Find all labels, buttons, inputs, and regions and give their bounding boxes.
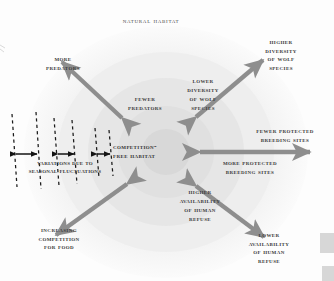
label-more-predators: More predators (26, 55, 100, 72)
label-higher-diversity-wolf-species: Higher diversity of wolf species (240, 38, 322, 73)
label-fewer-predators: Fewer predators (116, 95, 174, 113)
label-more-protected-breeding-sites: More protected breeding sites (200, 159, 300, 177)
label-higher-availability-human-refuse: Higher availability of human refuse (164, 188, 236, 224)
dash-line-1 (12, 114, 17, 187)
label-increasing-competition-for-food: Increasing competition for food (16, 226, 102, 252)
left-edge-tick (0, 45, 5, 52)
label-seasonal-variations: Variations due to seasonal fluctuations (6, 159, 124, 176)
diagram-title: Natural habitat (96, 17, 206, 25)
habitat-gradient-diagram: Natural habitat More predators Higher di… (0, 0, 334, 281)
edge-block-lower (322, 266, 334, 281)
label-lower-diversity-wolf-species: Lower diversity of wolf species (172, 77, 234, 113)
label-fewer-protected-breeding-sites: Fewer protected breeding sites (237, 127, 333, 144)
edge-block-upper (320, 233, 334, 253)
label-competition-free-habitat: Competition- free habitat (113, 143, 189, 161)
label-lower-availability-human-refuse: Lower availability of human refuse (228, 231, 310, 266)
